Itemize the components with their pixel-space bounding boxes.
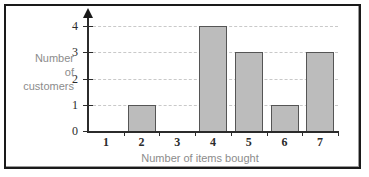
y-axis-title: Number of customers [8,51,74,93]
y-axis-title-line-2: of [8,65,74,79]
bar-category-2 [128,105,156,132]
bar-category-7 [306,52,334,132]
x-tick-label-4: 4 [195,136,231,149]
bar-category-5 [235,52,263,132]
y-axis-arrow-icon [83,8,93,18]
bar-category-6 [271,105,299,132]
bar-chart-plot: 0 1 2 3 4 1 2 3 4 5 6 7 Number [0,0,369,177]
y-tick-label-1: 1 [56,99,78,111]
x-tick-label-6: 6 [266,136,302,149]
x-tick-label-7: 7 [302,136,338,149]
x-tick-label-2: 2 [124,136,160,149]
x-tick-label-1: 1 [88,136,124,149]
bar-category-4 [199,26,227,132]
chart-screenshot: 0 1 2 3 4 1 2 3 4 5 6 7 Number [0,0,369,177]
y-tick-label-4: 4 [56,20,78,32]
y-axis-title-line-1: Number [8,51,74,65]
x-tick-label-5: 5 [231,136,267,149]
y-axis-title-line-3: customers [8,79,74,93]
x-tick-label-3: 3 [159,136,195,149]
x-axis-title: Number of items bought [110,152,290,165]
y-axis-line [87,16,89,132]
y-tick-label-0: 0 [56,125,78,137]
